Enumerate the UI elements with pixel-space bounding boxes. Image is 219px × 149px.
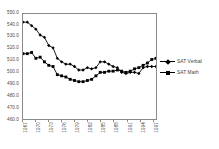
data-point [90, 67, 93, 70]
data-point [99, 71, 102, 74]
series-line [23, 52, 156, 81]
data-point [125, 71, 128, 74]
x-tick-label: 1988 [115, 122, 120, 133]
data-point [116, 69, 119, 72]
data-point [56, 73, 59, 76]
data-point [30, 51, 33, 54]
y-tick-label: 490.0 [7, 82, 19, 87]
data-point [155, 57, 156, 60]
legend-item-label: SAT Math [177, 70, 199, 75]
data-point [103, 71, 106, 74]
y-tick-label: 510.0 [7, 58, 19, 63]
data-point [23, 52, 24, 55]
data-point [52, 65, 55, 68]
data-point [23, 20, 25, 23]
data-point [77, 80, 80, 83]
y-tick-label: 470.0 [7, 106, 19, 111]
y-tick-label: 460.0 [7, 118, 19, 123]
data-point [69, 78, 72, 81]
data-point [133, 71, 136, 74]
data-point [146, 62, 149, 65]
data-point [82, 80, 85, 83]
data-point [150, 65, 153, 68]
x-axis: 1967197019731976197919821985198819911994… [22, 120, 157, 149]
x-tick-label: 1985 [102, 122, 107, 133]
y-tick-label: 530.0 [7, 34, 19, 39]
data-point [47, 44, 50, 47]
legend-item-sat-math[interactable]: SAT Math [160, 68, 219, 77]
data-point [26, 52, 29, 55]
data-point [112, 70, 115, 73]
data-point [103, 60, 106, 63]
series-line [23, 22, 156, 73]
diamond-marker-icon [160, 58, 175, 65]
y-tick-label: 480.0 [7, 94, 19, 99]
y-tick-label: 550.0 [7, 11, 19, 16]
x-tick-label: 1997 [155, 122, 160, 133]
data-point [34, 57, 37, 60]
data-point [107, 62, 110, 65]
data-point [64, 76, 67, 79]
data-point [86, 66, 89, 69]
data-point [64, 62, 67, 65]
data-point [107, 70, 110, 73]
data-point [81, 68, 84, 71]
data-point [146, 65, 149, 68]
square-marker-icon [160, 69, 175, 76]
data-point [120, 70, 123, 73]
x-tick-label: 1967 [24, 122, 29, 133]
series-sat-verbal [23, 20, 156, 75]
x-tick-label: 1973 [50, 122, 55, 133]
data-point [47, 64, 50, 67]
x-tick-label: 1970 [37, 122, 42, 133]
x-tick-label: 1994 [142, 122, 147, 133]
chart-legend: SAT VerbalSAT Math [160, 57, 219, 79]
data-point [43, 36, 46, 39]
x-tick-label: 1976 [63, 122, 68, 133]
sat-scores-line-chart: 550.0540.0530.0520.0510.0500.0490.0480.0… [0, 0, 219, 149]
data-point [129, 70, 132, 73]
data-point [150, 58, 153, 61]
data-point [43, 60, 46, 63]
x-tick-label: 1991 [129, 122, 134, 133]
legend-item-sat-verbal[interactable]: SAT Verbal [160, 57, 219, 66]
data-point [137, 66, 140, 69]
data-point [154, 65, 156, 68]
series-sat-math [23, 51, 156, 83]
data-point [69, 62, 72, 65]
y-axis: 550.0540.0530.0520.0510.0500.0490.0480.0… [0, 0, 22, 149]
data-point [111, 65, 114, 68]
x-tick-label: 1979 [76, 122, 81, 133]
data-point [95, 74, 98, 77]
y-tick-label: 500.0 [7, 70, 19, 75]
data-point [86, 79, 89, 82]
data-point [133, 67, 136, 70]
y-tick-label: 540.0 [7, 23, 19, 28]
y-tick-label: 520.0 [7, 46, 19, 51]
data-point [39, 56, 42, 59]
data-point [90, 78, 93, 81]
x-tick-label: 1982 [89, 122, 94, 133]
plot-svg [23, 14, 156, 119]
plot-area [22, 13, 157, 120]
data-point [142, 64, 145, 67]
data-point [73, 79, 76, 82]
data-point [51, 46, 54, 49]
data-point [60, 74, 63, 77]
legend-item-label: SAT Verbal [177, 59, 202, 64]
